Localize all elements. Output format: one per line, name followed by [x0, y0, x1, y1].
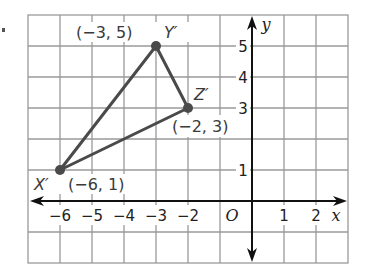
- x-tick-labels: −6 −5 −4 −3 −2 1 2: [49, 207, 321, 225]
- y-tick: 5: [238, 38, 248, 56]
- y-tick-labels: 5 4 3 1: [238, 38, 248, 180]
- grid: [28, 15, 348, 263]
- x-tick: −3: [145, 207, 167, 225]
- x-tick: 2: [311, 207, 321, 225]
- x-tick: −4: [113, 207, 135, 225]
- vertex-z-name: Z′: [193, 85, 209, 104]
- origin-label: O: [225, 206, 238, 225]
- x-tick: −6: [49, 207, 71, 225]
- coordinate-plane: −6 −5 −4 −3 −2 1 2 5 4 3 1 O x y (−3, 5)…: [0, 0, 367, 272]
- bullet-mark: [2, 28, 5, 32]
- vertex-x-coord-label: (−6, 1): [68, 175, 124, 194]
- y-tick: 4: [238, 69, 248, 87]
- y-tick: 1: [238, 162, 248, 180]
- vertex-x-point: [55, 165, 65, 175]
- x-tick: −5: [81, 207, 103, 225]
- vertex-y-point: [151, 41, 161, 51]
- y-axis-label: y: [260, 15, 271, 34]
- vertex-y-coord-label: (−3, 5): [76, 23, 132, 42]
- vertex-y-name: Y′: [164, 23, 178, 42]
- vertex-z-coord-label: (−2, 3): [172, 117, 228, 136]
- vertex-z-point: [183, 103, 193, 113]
- x-tick: 1: [279, 207, 289, 225]
- x-axis-label: x: [331, 206, 340, 225]
- y-tick: 3: [238, 100, 248, 118]
- vertex-x-name: X′: [33, 175, 49, 194]
- x-tick: −2: [177, 207, 199, 225]
